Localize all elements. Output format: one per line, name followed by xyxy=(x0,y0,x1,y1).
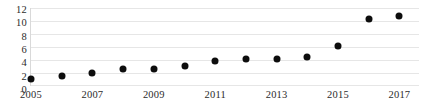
data-point xyxy=(335,42,342,49)
data-point xyxy=(304,53,311,60)
x-axis-tick-label: 2017 xyxy=(388,90,410,101)
gridline-6 xyxy=(31,47,419,48)
y-axis-tick-label: 8 xyxy=(3,32,27,43)
x-axis-tick-label: 2005 xyxy=(20,90,42,101)
data-point xyxy=(181,62,188,69)
gridline-4 xyxy=(31,60,419,61)
y-axis-tick-label: 10 xyxy=(3,18,27,29)
x-axis-tick-label: 2009 xyxy=(143,90,165,101)
data-point xyxy=(365,15,372,22)
gridline-12 xyxy=(31,8,419,9)
y-axis-tick-label: 6 xyxy=(3,45,27,56)
y-axis-tick-label: 2 xyxy=(3,72,27,83)
x-axis-tick-label: 2013 xyxy=(266,90,288,101)
data-point xyxy=(242,56,249,63)
data-point xyxy=(150,65,157,72)
data-point xyxy=(28,75,35,82)
data-point xyxy=(120,65,127,72)
data-point xyxy=(273,56,280,63)
gridline-10 xyxy=(31,21,419,22)
y-axis-tick-label: 12 xyxy=(3,5,27,16)
y-axis-tick-label: 4 xyxy=(3,58,27,69)
gridline-0 xyxy=(31,85,419,86)
data-point xyxy=(58,73,65,80)
x-axis-tick-label: 2015 xyxy=(327,90,349,101)
data-point xyxy=(212,58,219,65)
x-axis-tick-label: 2007 xyxy=(81,90,103,101)
data-point xyxy=(89,69,96,76)
scatter-chart: 12 10 8 6 4 2 0 2005 2007 2009 2011 2013… xyxy=(0,0,427,111)
plot-area xyxy=(31,8,419,85)
gridline-8 xyxy=(31,34,419,35)
data-point xyxy=(396,12,403,19)
x-axis-tick-label: 2011 xyxy=(204,90,225,101)
